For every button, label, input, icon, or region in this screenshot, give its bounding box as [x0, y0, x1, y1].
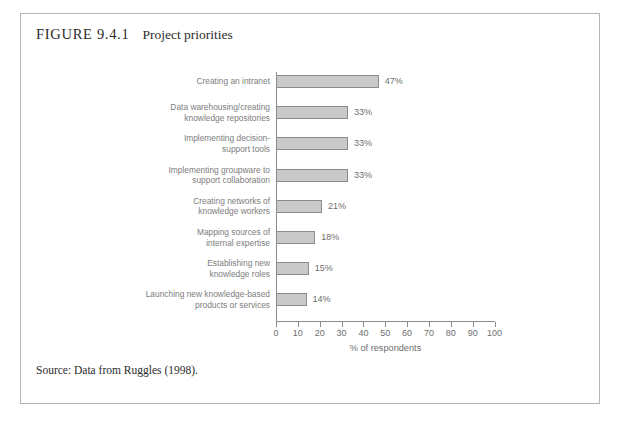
category-label-text: Creating networks of knowledge workers [193, 196, 270, 217]
x-axis-tick-label: 100 [480, 328, 510, 338]
x-axis-tick [473, 322, 474, 327]
category-label-text: Implementing decision- support tools [184, 133, 270, 154]
bar-value-label: 21% [328, 200, 346, 213]
bar-value-label: 33% [354, 169, 372, 182]
category-label: Implementing groupware to support collab… [90, 166, 270, 184]
bar [276, 262, 309, 275]
category-label: Creating networks of knowledge workers [90, 197, 270, 215]
bar-value-label: 33% [354, 106, 372, 119]
bar [276, 231, 315, 244]
bar-value-label: 33% [354, 137, 372, 150]
bar [276, 137, 348, 150]
category-label: Launching new knowledge-based products o… [90, 291, 270, 309]
bar [276, 293, 307, 306]
category-label: Implementing decision- support tools [90, 135, 270, 153]
x-axis-tick [276, 322, 277, 327]
bar-value-label: 47% [385, 75, 403, 88]
x-axis-tick [320, 322, 321, 327]
x-axis-tick [429, 322, 430, 327]
bar-value-label: 14% [313, 293, 331, 306]
bar-chart: Creating an intranet47%Data warehousing/… [0, 0, 619, 423]
category-label: Creating an intranet [90, 73, 270, 91]
category-label-text: Establishing new knowledge roles [207, 258, 270, 279]
bar-value-label: 18% [321, 231, 339, 244]
category-label-text: Implementing groupware to support collab… [169, 165, 271, 186]
bar [276, 106, 348, 119]
bar-value-label: 15% [315, 262, 333, 275]
bar [276, 169, 348, 182]
x-axis-tick [298, 322, 299, 327]
category-label-text: Mapping sources of internal expertise [197, 227, 270, 248]
x-axis-title: % of respondents [276, 343, 495, 353]
x-axis-tick [342, 322, 343, 327]
bar [276, 200, 322, 213]
category-label-text: Creating an intranet [196, 76, 270, 86]
category-label-text: Data warehousing/creating knowledge repo… [170, 102, 270, 123]
category-label: Establishing new knowledge roles [90, 260, 270, 278]
x-axis-tick [495, 322, 496, 327]
x-axis-tick [363, 322, 364, 327]
category-label-text: Launching new knowledge-based products o… [146, 289, 270, 310]
x-axis-tick [451, 322, 452, 327]
x-axis-tick [385, 322, 386, 327]
x-axis-tick [407, 322, 408, 327]
bar [276, 75, 379, 88]
source-note: Source: Data from Ruggles (1998). [36, 364, 198, 376]
category-label: Data warehousing/creating knowledge repo… [90, 104, 270, 122]
figure-page: FIGURE 9.4.1Project priorities Creating … [0, 0, 619, 423]
category-label: Mapping sources of internal expertise [90, 229, 270, 247]
